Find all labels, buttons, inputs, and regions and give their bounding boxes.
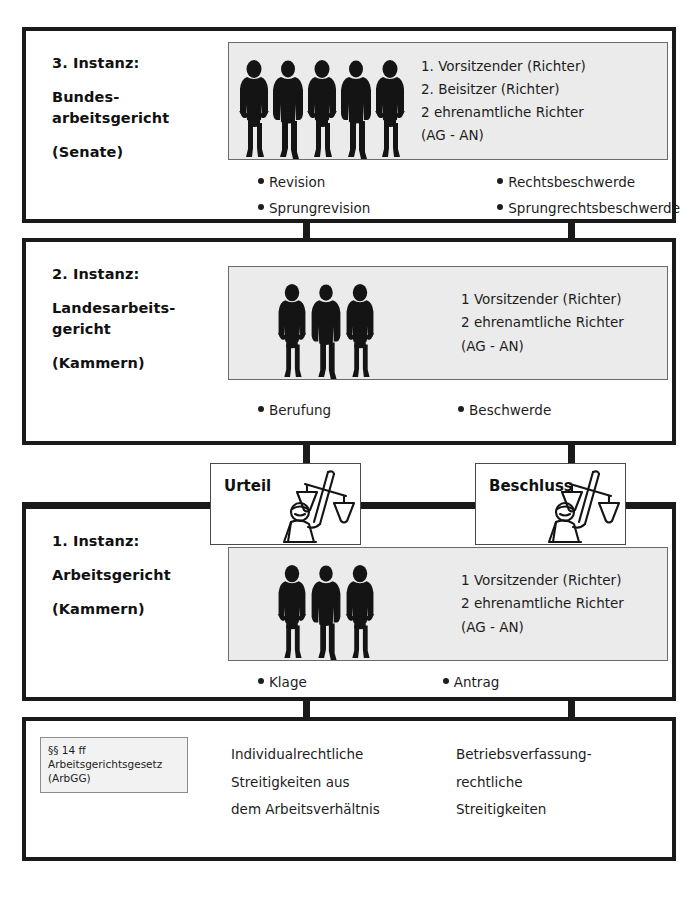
bullet-dot-icon	[258, 678, 264, 684]
remedy-label: Antrag	[454, 669, 499, 695]
instance-1-caption: 1. Instanz: Arbeitsgericht (Kammern)	[52, 531, 171, 620]
instance-2-caption: 2. Instanz: Landesarbeits- gericht (Kamm…	[52, 264, 175, 374]
subject-line: Streitigkeiten aus	[231, 769, 380, 797]
judge-figure-icon	[309, 283, 343, 379]
subject-matter-individual: Individualrechtliche Streitigkeiten aus …	[231, 741, 380, 824]
arbeitsgerichtsbarkeit-diagram: 3. Instanz: Bundes- arbeitsgericht (Sena…	[0, 0, 697, 901]
remedy-item: Klage	[258, 669, 307, 695]
instance-1-caption-line-2: Arbeitsgericht	[52, 565, 171, 586]
instance-3-caption-line-1: 3. Instanz:	[52, 53, 169, 74]
bullet-dot-icon	[443, 678, 449, 684]
subject-line: rechtliche	[456, 769, 592, 797]
scales-of-justice-icon	[543, 466, 621, 550]
subject-matter-collective: Betriebsverfassung- rechtliche Streitigk…	[456, 741, 592, 824]
judge-figure-icon	[309, 564, 343, 660]
caption-spacer	[52, 586, 171, 599]
instance-3-caption-line-2: Bundes-	[52, 87, 169, 108]
instance-1-bench-panel: 1 Vorsitzender (Richter) 2 ehrenamtliche…	[228, 547, 668, 661]
instance-2-caption-line-1: 2. Instanz:	[52, 264, 175, 285]
instance-1-caption-line-1: 1. Instanz:	[52, 531, 171, 552]
remedy-item: Sprungrechtsbeschwerde	[497, 195, 680, 221]
instance-2-composition: 1 Vorsitzender (Richter) 2 ehrenamtliche…	[377, 288, 624, 358]
composition-line: 2 ehrenamtliche Richter	[421, 101, 586, 124]
bullet-dot-icon	[258, 204, 264, 210]
judge-figure-icon	[343, 283, 377, 379]
remedy-label: Klage	[269, 669, 307, 695]
caption-spacer	[52, 74, 169, 87]
caption-spacer	[52, 129, 169, 142]
caption-spacer	[52, 285, 175, 298]
remedy-item: Antrag	[443, 669, 499, 695]
statute-line-3: (ArbGG)	[48, 771, 180, 785]
instance-box-2: 2. Instanz: Landesarbeits- gericht (Kamm…	[22, 238, 676, 445]
bullet-dot-icon	[258, 406, 264, 412]
remedy-item: Rechtsbeschwerde	[497, 169, 680, 195]
judge-figure-icon	[343, 564, 377, 660]
instance-2-remedies-left: Berufung	[258, 397, 331, 423]
bullet-dot-icon	[258, 178, 264, 184]
bullet-dot-icon	[497, 178, 503, 184]
instance-2-caption-line-3: gericht	[52, 319, 175, 340]
remedy-item: Beschwerde	[458, 397, 551, 423]
remedy-label: Rechtsbeschwerde	[508, 169, 635, 195]
instance-3-judge-figures	[229, 43, 407, 159]
judge-figure-icon	[305, 59, 339, 159]
instance-3-caption: 3. Instanz: Bundes- arbeitsgericht (Sena…	[52, 53, 169, 163]
judge-figure-icon	[275, 283, 309, 379]
composition-line: 1 Vorsitzender (Richter)	[461, 288, 624, 311]
instance-3-remedies: Revision Sprungrevision Rechtsbeschwerde…	[258, 169, 680, 222]
statute-line-2: Arbeitsgerichtsgesetz	[48, 757, 180, 771]
subject-line: dem Arbeitsverhältnis	[231, 796, 380, 824]
instance-2-remedies-right: Beschwerde	[458, 397, 551, 423]
remedy-label: Beschwerde	[469, 397, 551, 423]
composition-line: 1 Vorsitzender (Richter)	[461, 569, 624, 592]
instance-3-bench-panel: 1. Vorsitzender (Richter) 2. Beisitzer (…	[228, 42, 668, 160]
composition-line: (AG - AN)	[421, 124, 586, 147]
instance-3-caption-line-3: arbeitsgericht	[52, 108, 169, 129]
decision-card-beschluss: Beschluss	[475, 463, 626, 545]
subject-line: Streitigkeiten	[456, 796, 592, 824]
instance-1-remedies-right: Antrag	[443, 669, 499, 695]
judge-figure-icon	[339, 59, 373, 159]
composition-line: (AG - AN)	[461, 616, 624, 639]
instance-1-remedies-left: Klage	[258, 669, 307, 695]
instance-3-composition: 1. Vorsitzender (Richter) 2. Beisitzer (…	[407, 55, 586, 148]
remedy-item: Berufung	[258, 397, 331, 423]
instance-2-caption-line-4: (Kammern)	[52, 353, 175, 374]
judge-figure-icon	[275, 564, 309, 660]
composition-line: (AG - AN)	[461, 335, 624, 358]
remedy-item: Revision	[258, 169, 370, 195]
judge-figure-icon	[271, 59, 305, 159]
remedy-label: Sprungrevision	[269, 195, 370, 221]
decision-card-urteil: Urteil	[210, 463, 361, 545]
remedy-label: Revision	[269, 169, 325, 195]
instance-3-remedies-right: Rechtsbeschwerde Sprungrechtsbeschwerde	[497, 169, 680, 222]
judge-figure-icon	[373, 59, 407, 159]
composition-line: 2. Beisitzer (Richter)	[421, 78, 586, 101]
instance-2-remedies: Berufung Beschwerde	[258, 397, 551, 423]
caption-spacer	[52, 552, 171, 565]
remedy-label: Berufung	[269, 397, 331, 423]
instance-1-remedies: Klage Antrag	[258, 669, 499, 695]
composition-line: 1. Vorsitzender (Richter)	[421, 55, 586, 78]
instance-3-remedies-left: Revision Sprungrevision	[258, 169, 370, 222]
judge-figure-icon	[237, 59, 271, 159]
statute-line-1: §§ 14 ff	[48, 743, 180, 757]
foundation-box: §§ 14 ff Arbeitsgerichtsgesetz (ArbGG) I…	[22, 717, 676, 861]
instance-3-caption-line-4: (Senate)	[52, 142, 169, 163]
scales-of-justice-icon	[278, 466, 356, 550]
subject-line: Betriebsverfassung-	[456, 741, 592, 769]
subject-line: Individualrechtliche	[231, 741, 380, 769]
instance-2-bench-panel: 1 Vorsitzender (Richter) 2 ehrenamtliche…	[228, 266, 668, 380]
bullet-dot-icon	[497, 204, 503, 210]
statute-reference-box: §§ 14 ff Arbeitsgerichtsgesetz (ArbGG)	[40, 737, 188, 793]
remedy-label: Sprungrechtsbeschwerde	[508, 195, 680, 221]
instance-1-caption-line-4: (Kammern)	[52, 599, 171, 620]
composition-line: 2 ehrenamtliche Richter	[461, 592, 624, 615]
bullet-dot-icon	[458, 406, 464, 412]
instance-box-3: 3. Instanz: Bundes- arbeitsgericht (Sena…	[22, 27, 676, 223]
instance-2-judge-figures	[229, 267, 377, 379]
decision-label-urteil: Urteil	[224, 477, 271, 495]
caption-spacer	[52, 340, 175, 353]
instance-2-caption-line-2: Landesarbeits-	[52, 298, 175, 319]
